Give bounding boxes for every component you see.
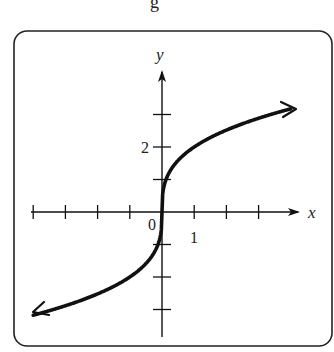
function-curve [33, 102, 296, 315]
x-tick-label-1: 1 [190, 229, 198, 246]
graph-figure: x y 0 1 2 [0, 0, 334, 352]
x-axis [31, 205, 298, 219]
graph-frame [14, 31, 332, 346]
origin-label: 0 [148, 216, 156, 233]
y-tick-label-2: 2 [141, 139, 149, 156]
x-axis-label: x [307, 203, 316, 222]
y-axis-label: y [154, 45, 164, 64]
